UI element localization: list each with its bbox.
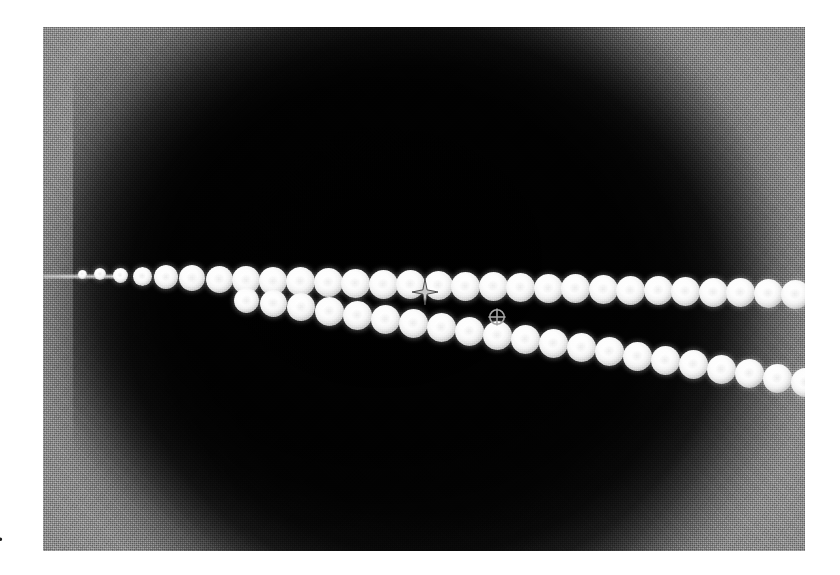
micrograph-panel[interactable] <box>43 27 805 551</box>
image-grain-overlay <box>43 27 805 551</box>
margin-dot-label: . <box>0 524 3 544</box>
left-margin-annotations: 0 . <box>0 0 43 575</box>
margin-number-label: 0 <box>0 466 1 485</box>
